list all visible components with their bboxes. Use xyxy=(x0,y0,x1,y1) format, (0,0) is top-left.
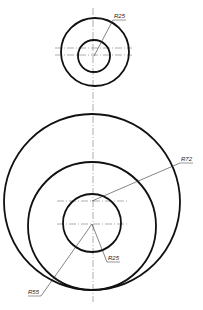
r72-leader xyxy=(92,163,180,201)
top-outer-circle xyxy=(61,18,129,86)
top-circle-group: R25 xyxy=(55,13,132,86)
technical-drawing: R25 R72 R25 R55 xyxy=(0,0,203,310)
bottom-circle-group: R72 R25 R55 xyxy=(4,114,193,296)
large-circle xyxy=(4,114,180,290)
middle-circle xyxy=(28,162,156,290)
top-r25-leader xyxy=(94,20,113,56)
bottom-r25-label: R25 xyxy=(108,255,120,261)
bottom-r25-leader xyxy=(92,224,107,262)
small-circle xyxy=(63,194,121,252)
top-r25-label: R25 xyxy=(114,13,126,19)
r72-label: R72 xyxy=(181,156,193,162)
r55-label: R55 xyxy=(28,289,40,295)
